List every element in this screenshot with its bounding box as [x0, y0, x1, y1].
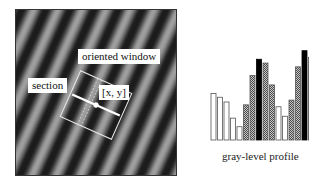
profile-bar: [263, 63, 268, 140]
gray-level-profile-chart: [205, 40, 309, 145]
ridge-pattern: [16, 10, 177, 176]
section-label: section: [28, 78, 67, 93]
profile-bar: [283, 116, 288, 140]
profile-bar: [237, 127, 242, 140]
profile-bar: [296, 67, 301, 140]
profile-bar: [309, 57, 310, 140]
profile-caption: gray-level profile: [222, 150, 299, 162]
profile-bar: [302, 51, 307, 140]
profile-bar: [250, 75, 255, 140]
profile-bar: [276, 107, 281, 140]
center-label: [x, y]: [99, 85, 129, 100]
profile-bar: [244, 105, 249, 140]
profile-bar: [257, 59, 262, 140]
profile-bar: [270, 85, 275, 140]
fingerprint-image-panel: oriented window section [x, y]: [15, 9, 177, 176]
profile-bar: [224, 102, 229, 140]
profile-bar: [211, 93, 216, 140]
oriented-window-label: oriented window: [78, 49, 160, 64]
profile-bar: [231, 118, 236, 140]
profile-bar: [218, 97, 223, 140]
profile-bar: [289, 100, 294, 140]
profile-bars: [205, 40, 309, 145]
